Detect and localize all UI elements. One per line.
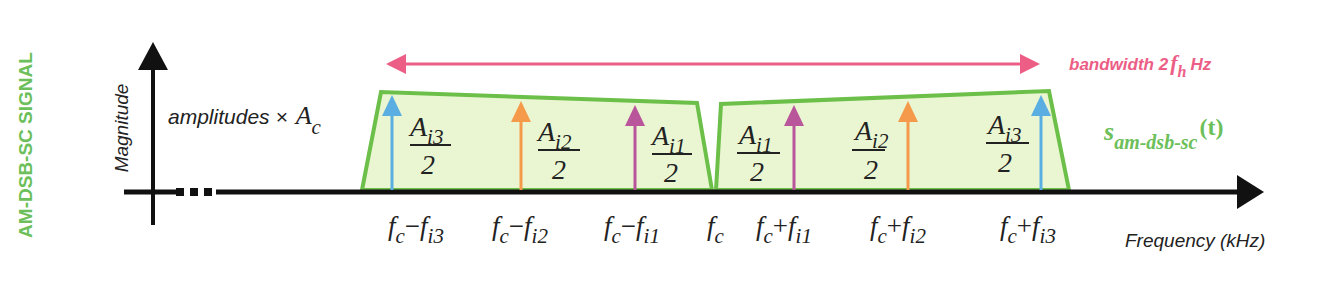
freq-label-upper-i2: fc+fi2 [870,211,926,248]
am-dsb-sc-spectrum-diagram: AM-DSB-SC SIGNAL [0,0,1337,290]
svg-text:2: 2 [864,154,878,185]
svg-text:2: 2 [998,147,1012,178]
freq-label-lower-i2: fc−fi2 [492,211,548,248]
y-axis-arrowhead-icon [138,42,168,70]
freq-label-upper-i3: fc+fi3 [1000,211,1056,248]
x-axis-label: Frequency (kHz) [1125,230,1265,251]
x-axis-arrowhead-icon [1237,175,1264,209]
bandwidth-arrow [386,54,1040,74]
svg-text:2: 2 [421,149,435,180]
bandwidth-arrow-left-icon [386,54,406,74]
bandwidth-arrow-right-icon [1020,54,1040,74]
y-axis [138,42,168,225]
freq-label-upper-i1: fc+fi1 [756,211,812,248]
svg-text:2: 2 [552,154,566,185]
freq-label-lower-i3: fc−fi3 [388,211,444,248]
amplitude-note: amplitudes × Ac [168,101,322,139]
y-axis-label: Magnitude [111,84,132,173]
svg-text:2: 2 [750,156,764,187]
signal-label: sam-dsb-sc(t) [1103,114,1223,153]
freq-label-lower-i1: fc−fi1 [604,211,660,248]
svg-text:2: 2 [664,157,678,188]
bandwidth-label: bandwidth 2fhHz [1069,50,1212,80]
freq-label-carrier: fc [707,211,725,248]
